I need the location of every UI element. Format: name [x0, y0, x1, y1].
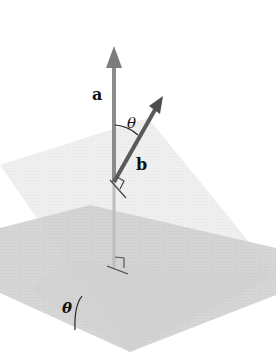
label-b: b	[136, 155, 147, 174]
label-a: a	[92, 85, 102, 104]
diagram-canvas: a b θ θ	[0, 0, 276, 364]
vector-a-arrowhead	[106, 46, 122, 68]
label-theta-normals: θ	[127, 114, 136, 132]
label-theta-planes: θ	[62, 299, 72, 317]
planes-normal-vectors-diagram: a b θ θ	[0, 0, 276, 364]
